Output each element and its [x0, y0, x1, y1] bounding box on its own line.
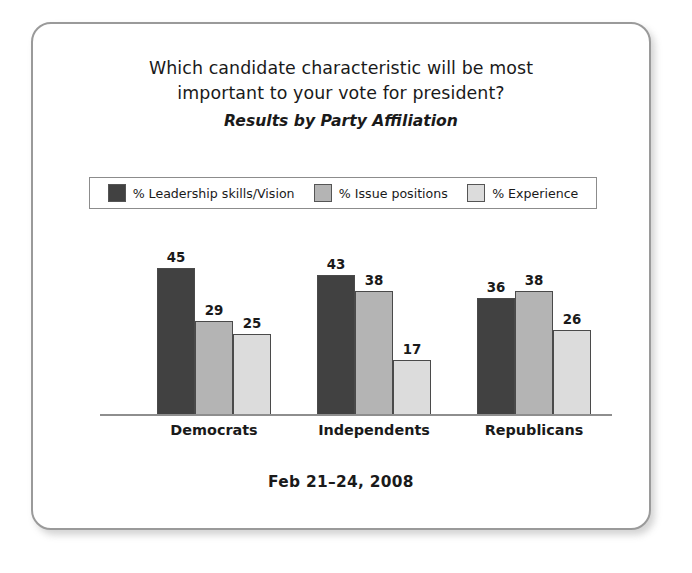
chart-footer-date: Feb 21–24, 2008: [33, 473, 649, 491]
legend-swatch-leadership: [108, 184, 126, 202]
page-title-line-1: Which candidate characteristic will be m…: [33, 56, 649, 81]
x-axis-label-republicans: Republicans: [454, 422, 614, 438]
bar-value-label: 43: [317, 257, 355, 272]
bar-rect: [553, 330, 591, 416]
bar-republicans-series-2[interactable]: 38: [515, 291, 553, 416]
legend-item-leadership: % Leadership skills/Vision: [108, 184, 295, 202]
page-title-line-2: important to your vote for president?: [33, 81, 649, 106]
x-axis-label-democrats: Democrats: [134, 422, 294, 438]
bar-chart-plot-area: 452925433817363826: [100, 224, 612, 416]
legend-swatch-experience: [467, 184, 485, 202]
bar-independents-series-3[interactable]: 17: [393, 360, 431, 416]
bar-rect: [515, 291, 553, 416]
legend-label-experience: % Experience: [492, 186, 578, 201]
bar-value-label: 26: [553, 312, 591, 327]
bar-rect: [157, 268, 195, 416]
chart-subtitle: Results by Party Affiliation: [33, 112, 649, 130]
bar-value-label: 45: [157, 250, 195, 265]
x-axis-line: [100, 414, 612, 416]
bar-democrats-series-3[interactable]: 25: [233, 334, 271, 416]
bar-independents-series-1[interactable]: 43: [317, 275, 355, 416]
bar-value-label: 38: [515, 273, 553, 288]
bar-value-label: 17: [393, 342, 431, 357]
bar-rect: [195, 321, 233, 416]
chart-legend: % Leadership skills/Vision % Issue posit…: [89, 177, 597, 209]
bar-value-label: 36: [477, 280, 515, 295]
legend-label-issue-positions: % Issue positions: [339, 186, 448, 201]
poll-result-card: Which candidate characteristic will be m…: [31, 22, 651, 530]
legend-swatch-issue-positions: [314, 184, 332, 202]
bar-rect: [355, 291, 393, 416]
bar-democrats-series-1[interactable]: 45: [157, 268, 195, 416]
bar-republicans-series-3[interactable]: 26: [553, 330, 591, 416]
bar-value-label: 38: [355, 273, 393, 288]
bar-group-independents: 433817: [317, 275, 431, 416]
bar-group-democrats: 452925: [157, 268, 271, 416]
title-block: Which candidate characteristic will be m…: [33, 56, 649, 130]
bar-group-republicans: 363826: [477, 291, 591, 416]
legend-item-issue-positions: % Issue positions: [314, 184, 448, 202]
legend-item-experience: % Experience: [467, 184, 578, 202]
bar-value-label: 25: [233, 316, 271, 331]
bar-independents-series-2[interactable]: 38: [355, 291, 393, 416]
bar-rect: [233, 334, 271, 416]
bar-rect: [477, 298, 515, 416]
x-axis-label-independents: Independents: [294, 422, 454, 438]
bar-rect: [393, 360, 431, 416]
legend-label-leadership: % Leadership skills/Vision: [133, 186, 295, 201]
bar-republicans-series-1[interactable]: 36: [477, 298, 515, 416]
bar-rect: [317, 275, 355, 416]
bar-democrats-series-2[interactable]: 29: [195, 321, 233, 416]
bar-value-label: 29: [195, 303, 233, 318]
